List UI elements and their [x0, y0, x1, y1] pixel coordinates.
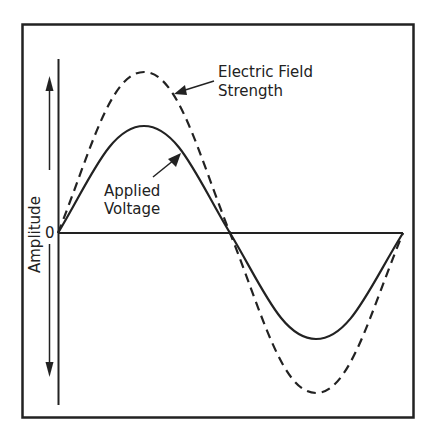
diagram-canvas: Amplitude 0 Electric Field Strength Appl…	[0, 0, 428, 434]
applied-voltage-label-line2: Voltage	[104, 200, 160, 218]
zero-label: 0	[45, 224, 55, 242]
electric-field-pointer-arrow-icon	[174, 81, 214, 95]
applied-voltage-pointer-arrow-icon	[153, 153, 181, 177]
electric-field-label-line2: Strength	[218, 82, 283, 100]
applied-voltage-label-line1: Applied	[104, 182, 160, 200]
amplitude-axis-label: Amplitude	[26, 196, 44, 273]
electric-field-label-line1: Electric Field	[218, 63, 313, 81]
